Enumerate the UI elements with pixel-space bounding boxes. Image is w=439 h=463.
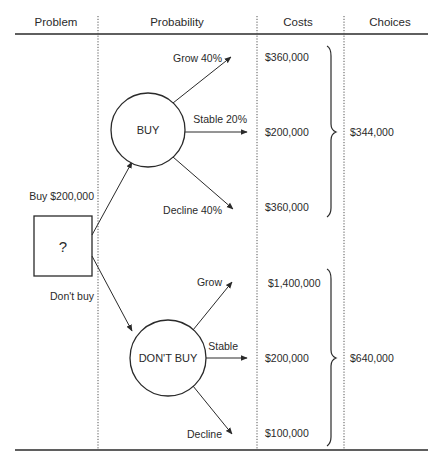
dont-buy-node-label: DON'T BUY [139,352,198,364]
dont-buy-stable-label: Stable [208,340,238,352]
choice-dont-buy: $640,000 [350,352,394,364]
buy-stable-label: Stable 20% [193,113,247,125]
column-dividers [98,16,344,450]
cost-buy-decline: $360,000 [265,201,309,213]
header-problem: Problem [35,16,78,28]
table-header: Problem Probability Costs Choices [35,16,411,28]
decision-node: ? [34,216,92,276]
cost-buy-stable: $200,000 [265,126,309,138]
buy-grow-label: Grow 40% [173,52,222,64]
cost-dont-buy-grow: $1,400,000 [268,277,321,289]
costs-column: $360,000 $200,000 $360,000 $1,400,000 $2… [265,51,321,439]
decision-tree-diagram: Problem Probability Costs Choices ? Buy … [0,0,439,463]
cost-dont-buy-stable: $200,000 [265,352,309,364]
dont-buy-grow-arrow [193,282,232,330]
dont-buy-decline-arrow [193,386,232,434]
dont-buy-decline-label: Decline [187,428,222,440]
buy-brace [327,46,336,217]
buy-decline-arrow [173,157,233,209]
dont-buy-grow-label: Grow [197,276,223,288]
dont-buy-brace [327,269,336,446]
header-choices: Choices [369,16,411,28]
choice-buy: $344,000 [350,126,394,138]
header-probability: Probability [150,16,204,28]
cost-dont-buy-decline: $100,000 [265,427,309,439]
dont-buy-node: DON'T BUY [130,320,206,396]
decision-symbol: ? [59,238,67,255]
header-costs: Costs [283,16,313,28]
dont-buy-branch-label: Don't buy [50,290,95,302]
buy-node: BUY [111,93,185,167]
buy-decline-label: Decline 40% [163,204,222,216]
buy-node-label: BUY [137,124,160,136]
cost-buy-grow: $360,000 [265,51,309,63]
buy-branch-label: Buy $200,000 [29,190,94,202]
